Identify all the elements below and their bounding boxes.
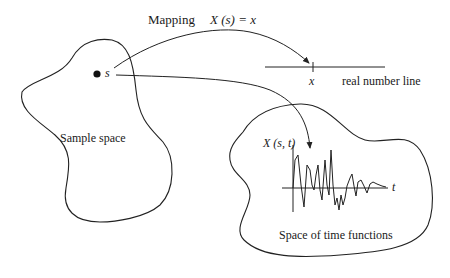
- random-variable-diagram: Mapping X (s) = x s Sample space x real …: [0, 0, 450, 278]
- sample-space-label: Sample space: [60, 132, 126, 144]
- function-label: X (s, t): [263, 137, 295, 149]
- function-space-label: Space of time functions: [279, 229, 393, 241]
- sample-function-waveform: [293, 150, 386, 210]
- mapping-label: Mapping: [148, 13, 195, 26]
- number-line-label: real number line: [342, 75, 421, 87]
- sample-point: [93, 70, 100, 77]
- mapping-arrow-to-number-line: [114, 30, 309, 68]
- time-axis-label: t: [392, 181, 395, 193]
- mapping-formula: X (s) = x: [210, 13, 256, 26]
- sample-point-label: s: [105, 67, 110, 79]
- number-line-point-label: x: [309, 75, 314, 87]
